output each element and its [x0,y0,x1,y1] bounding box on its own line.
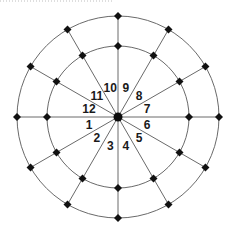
outer-node-diamond-icon [165,200,173,208]
outer-node-diamond-icon [201,164,209,172]
inner-node-diamond-icon [185,113,193,121]
sector-label-10: 10 [104,81,118,95]
sector-label-12: 12 [82,102,96,116]
outer-node-diamond-icon [27,164,35,172]
radial-web-diagram: 123456789101112 [0,0,229,229]
outer-node-diamond-icon [114,214,122,222]
inner-node-diamond-icon [79,52,87,60]
outer-node-diamond-icon [165,26,173,34]
outer-node-diamond-icon [13,113,21,121]
inner-node-diamond-icon [114,184,122,192]
spoke-line [118,67,205,118]
sector-label-7: 7 [144,102,151,116]
inner-node-diamond-icon [53,78,61,86]
inner-node-diamond-icon [150,52,158,60]
inner-node-diamond-icon [175,149,183,157]
outer-node-diamond-icon [64,200,72,208]
sector-label-8: 8 [136,89,143,103]
inner-node-diamond-icon [175,78,183,86]
outer-node-diamond-icon [64,26,72,34]
outer-node-diamond-icon [215,113,223,121]
sector-label-3: 3 [107,139,114,153]
outer-node-diamond-icon [201,63,209,71]
inner-node-diamond-icon [43,113,51,121]
inner-node-diamond-icon [114,42,122,50]
sector-label-6: 6 [144,118,151,132]
spoke-line [118,117,205,168]
sector-label-9: 9 [122,81,129,95]
center-hub [114,113,123,122]
sector-label-5: 5 [136,131,143,145]
inner-node-diamond-icon [79,174,87,182]
sector-label-11: 11 [90,89,103,103]
inner-node-diamond-icon [53,149,61,157]
sector-label-4: 4 [122,139,129,153]
inner-node-diamond-icon [150,174,158,182]
outer-node-diamond-icon [114,12,122,20]
sector-label-2: 2 [93,131,100,145]
outer-node-diamond-icon [27,63,35,71]
spoke-line [31,117,118,168]
spoke-line [68,117,119,204]
sector-label-1: 1 [86,118,93,132]
